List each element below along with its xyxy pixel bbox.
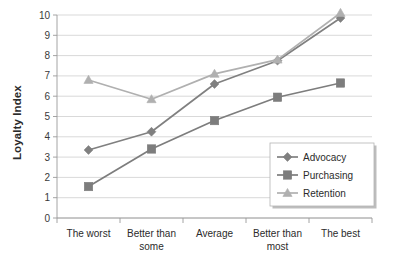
x-category-label: Better than: [253, 228, 302, 239]
y-tick-label: 10: [39, 10, 51, 21]
y-tick-label: 0: [44, 213, 50, 224]
y-tick-label: 1: [44, 192, 50, 203]
legend-item-advocacy[interactable]: Advocacy: [277, 152, 346, 163]
loyalty-index-line-chart: 012345678910 The worstBetter thansomeAve…: [0, 0, 393, 272]
y-axis-tick-labels: 012345678910: [39, 10, 51, 224]
x-category-label: Average: [196, 228, 234, 239]
chart-legend: AdvocacyPurchasingRetention: [270, 143, 377, 209]
y-tick-label: 8: [44, 50, 50, 61]
data-point-marker-square: [336, 79, 344, 87]
x-category-label: Better than: [127, 228, 176, 239]
x-category-label: The best: [321, 228, 360, 239]
data-point-marker-triangle: [336, 8, 345, 16]
data-point-marker-square: [210, 116, 218, 124]
y-tick-label: 6: [44, 91, 50, 102]
data-point-marker-square: [84, 182, 92, 190]
legend-item-purchasing[interactable]: Purchasing: [277, 170, 353, 181]
legend-label: Retention: [303, 188, 346, 199]
x-axis-tickmarks: [57, 218, 372, 223]
data-point-marker-square: [283, 171, 291, 179]
legend-label: Advocacy: [303, 152, 346, 163]
x-category-label: most: [267, 241, 289, 252]
x-category-label: The worst: [67, 228, 111, 239]
x-axis-category-labels: The worstBetter thansomeAverageBetter th…: [67, 228, 361, 252]
data-point-marker-square: [273, 93, 281, 101]
y-tick-label: 9: [44, 30, 50, 41]
y-axis-title: Loyalty Index: [11, 85, 23, 160]
data-point-marker-square: [147, 145, 155, 153]
y-tick-label: 3: [44, 152, 50, 163]
x-category-label: some: [139, 241, 164, 252]
y-tick-label: 5: [44, 111, 50, 122]
data-point-marker-triangle: [84, 75, 93, 83]
legend-label: Purchasing: [303, 170, 353, 181]
data-point-marker-diamond: [84, 146, 93, 155]
chart-canvas: 012345678910 The worstBetter thansomeAve…: [0, 0, 393, 272]
y-tick-label: 4: [44, 131, 50, 142]
y-tick-label: 2: [44, 172, 50, 183]
series-advocacy: [84, 14, 345, 155]
y-tick-label: 7: [44, 70, 50, 81]
